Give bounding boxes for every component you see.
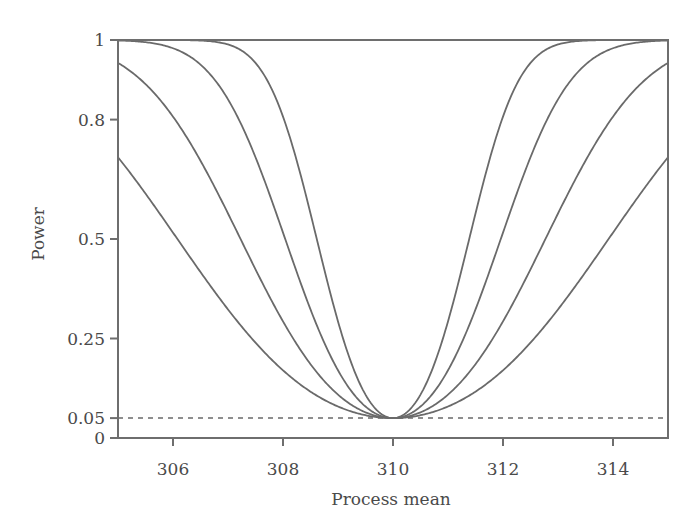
y-tick-label: 1 xyxy=(94,30,105,50)
y-axis-title: Power xyxy=(28,206,48,261)
x-axis-title: Process mean xyxy=(331,489,451,509)
x-tick-label: 314 xyxy=(597,459,629,479)
power-curve-chart: 306308310312314 00.050.250.50.81 Process… xyxy=(0,0,698,529)
y-tick-label: 0.5 xyxy=(78,229,105,249)
y-axis-ticks: 00.050.250.50.81 xyxy=(67,30,118,448)
power-curves xyxy=(118,40,668,418)
y-tick-label: 0.05 xyxy=(67,408,105,428)
y-tick-label: 0 xyxy=(94,428,105,448)
x-tick-label: 310 xyxy=(377,459,409,479)
x-axis-ticks: 306308310312314 xyxy=(157,438,629,479)
power-curve-4 xyxy=(118,40,668,418)
y-tick-label: 0.8 xyxy=(78,110,105,130)
x-tick-label: 312 xyxy=(487,459,519,479)
x-tick-label: 306 xyxy=(157,459,189,479)
power-curve-3 xyxy=(118,40,668,418)
plot-frame xyxy=(118,40,668,438)
y-tick-label: 0.25 xyxy=(67,329,105,349)
power-curve-1 xyxy=(118,157,668,418)
x-tick-label: 308 xyxy=(267,459,299,479)
power-curve-2 xyxy=(118,63,668,418)
